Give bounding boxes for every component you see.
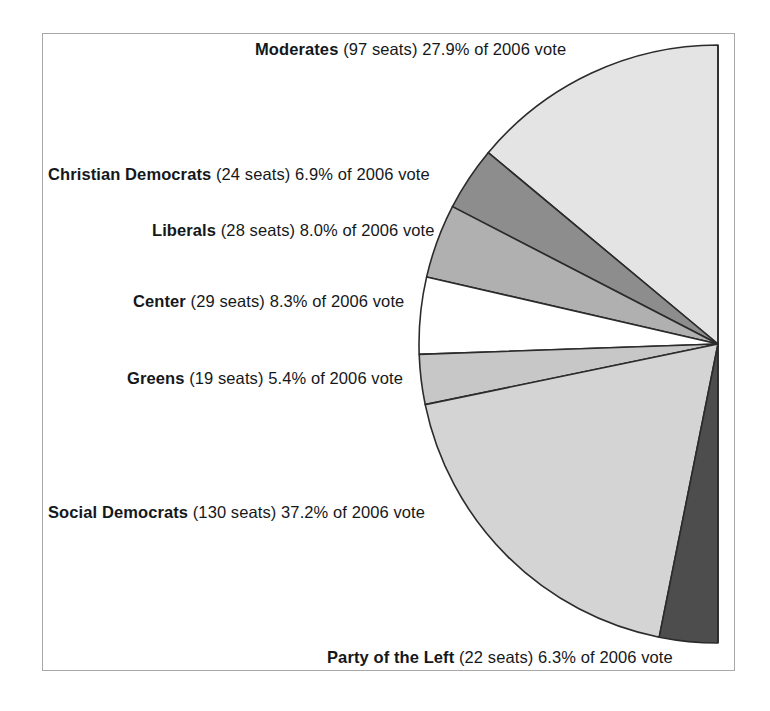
slice-label-party-name: Christian Democrats <box>48 165 211 183</box>
slice-label-percent: 8.3% of 2006 vote <box>270 292 405 310</box>
pie-slices <box>419 45 718 643</box>
slice-label-party-of-the-left: Party of the Left (22 seats) 6.3% of 200… <box>327 648 673 666</box>
slice-label-center: Center (29 seats) 8.3% of 2006 vote <box>133 292 404 310</box>
slice-label-percent: 8.0% of 2006 vote <box>300 221 435 239</box>
slice-label-percent: 37.2% of 2006 vote <box>281 503 425 521</box>
slice-label-seats: (19 seats) <box>189 369 263 387</box>
slice-label-seats: (130 seats) <box>193 503 277 521</box>
slice-label-party-name: Party of the Left <box>327 648 454 666</box>
slice-label-percent: 6.3% of 2006 vote <box>538 648 673 666</box>
slice-label-moderates: Moderates (97 seats) 27.9% of 2006 vote <box>255 40 566 58</box>
slice-label-party-name: Social Democrats <box>48 503 188 521</box>
slice-label-percent: 5.4% of 2006 vote <box>268 369 403 387</box>
slice-label-percent: 6.9% of 2006 vote <box>295 165 430 183</box>
slice-label-percent: 27.9% of 2006 vote <box>422 40 566 58</box>
slice-label-seats: (29 seats) <box>191 292 265 310</box>
slice-label-greens: Greens (19 seats) 5.4% of 2006 vote <box>127 369 403 387</box>
slice-label-social-democrats: Social Democrats (130 seats) 37.2% of 20… <box>48 503 425 521</box>
slice-label-seats: (22 seats) <box>459 648 533 666</box>
slice-label-party-name: Moderates <box>255 40 338 58</box>
slice-label-party-name: Liberals <box>152 221 216 239</box>
slice-label-seats: (24 seats) <box>216 165 290 183</box>
chart-page: Moderates (97 seats) 27.9% of 2006 vote … <box>0 0 770 711</box>
slice-label-seats: (97 seats) <box>343 40 417 58</box>
slice-label-christian-democrats: Christian Democrats (24 seats) 6.9% of 2… <box>48 165 430 183</box>
slice-label-liberals: Liberals (28 seats) 8.0% of 2006 vote <box>152 221 435 239</box>
slice-label-party-name: Greens <box>127 369 184 387</box>
slice-label-seats: (28 seats) <box>221 221 295 239</box>
pie-chart <box>0 0 770 711</box>
slice-label-party-name: Center <box>133 292 186 310</box>
